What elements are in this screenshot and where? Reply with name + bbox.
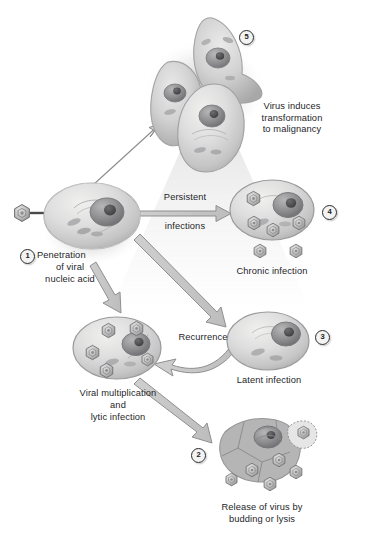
virion-released — [246, 463, 258, 477]
badge-2: 2 — [191, 448, 206, 463]
background-light-cone — [110, 120, 310, 310]
cell-infected-host — [44, 183, 140, 249]
label-penetration-line3: nucleic acid — [20, 274, 120, 286]
label-persistent-line1: Persistent — [147, 192, 223, 204]
arrow-recurrence — [154, 338, 241, 376]
label-persistent-line2: infections — [147, 221, 223, 233]
arrow-virus-entry — [30, 209, 70, 219]
virion-intracellular — [130, 321, 143, 335]
label-multiplication-line3: lytic infection — [57, 412, 179, 424]
virion-intracellular — [102, 323, 115, 337]
label-transformation-line2: transformation — [228, 113, 356, 125]
label-recurrence: Recurrence — [168, 332, 238, 344]
cell-latent-infection — [227, 312, 309, 370]
arrow-to-transformation — [93, 124, 160, 185]
virion-intracellular — [142, 353, 153, 366]
label-transformation-line3: to malignancy — [228, 124, 356, 136]
virion-released — [264, 477, 276, 491]
badge-3: 3 — [315, 330, 330, 345]
badge-5: 5 — [239, 30, 254, 45]
virion-released — [226, 473, 237, 486]
label-transformation-line1: Virus induces — [228, 101, 356, 113]
virion-released — [273, 453, 285, 467]
label-release-line1: Release of virus by — [195, 502, 329, 514]
virion-intracellular — [86, 345, 99, 359]
label-multiplication-line1: Viral multiplication — [57, 388, 179, 400]
label-release-line2: budding or lysis — [195, 514, 329, 526]
cell-lysed-releasing-virus — [220, 419, 317, 491]
label-latent-infection: Latent infection — [210, 375, 328, 387]
virion-intracellular — [293, 216, 305, 230]
label-multiplication-line2: and — [57, 400, 179, 412]
cell-viral-multiplication — [73, 317, 161, 379]
label-chronic-infection: Chronic infection — [212, 266, 332, 278]
virion-budding — [288, 421, 317, 448]
virion-released — [290, 465, 302, 479]
virion-intracellular — [100, 363, 113, 377]
virion-released — [290, 244, 302, 258]
badge-4: 4 — [322, 205, 337, 220]
virion-free — [15, 205, 30, 222]
virus-infection-outcomes-diagram: 5 Virus induces transformation to malign… — [0, 0, 366, 541]
label-penetration-line1: Penetration — [37, 250, 86, 262]
label-penetration-line2: of viral — [20, 262, 120, 274]
label-transformation: Virus induces transformation to malignan… — [228, 101, 356, 136]
